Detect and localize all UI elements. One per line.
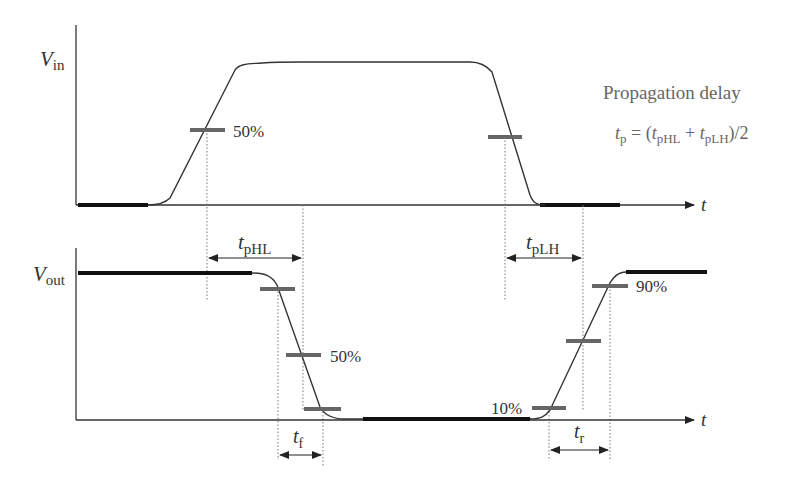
tf-label: tf: [293, 425, 304, 451]
input-t-axis-label: t: [701, 194, 707, 215]
output-plot: [76, 248, 707, 420]
vout-label: Vout: [33, 262, 66, 288]
output-waveform: [252, 272, 626, 419]
output-10-label: 10%: [491, 399, 522, 418]
input-50-label: 50%: [233, 122, 264, 141]
tpLH-label: tpLH: [526, 230, 560, 257]
output-50-label: 50%: [330, 347, 361, 366]
guide-lines: [207, 130, 610, 467]
propagation-formula: tp = (tpHL + tpLH)/2: [615, 123, 749, 146]
input-plot: [76, 25, 694, 205]
vin-label: Vin: [40, 47, 65, 73]
input-waveform: [148, 62, 545, 205]
output-t-axis-label: t: [701, 409, 707, 430]
output-90-label: 90%: [636, 277, 667, 296]
diagram-title: Propagation delay: [603, 82, 741, 103]
propagation-delay-diagram: Vin 50% t Propagation delay tp = (tpHL +…: [0, 0, 812, 485]
tpHL-label: tpHL: [238, 230, 271, 257]
tr-label: tr: [574, 420, 585, 446]
